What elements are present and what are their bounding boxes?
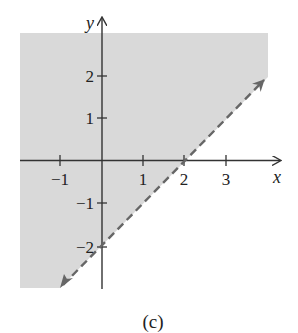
y-tick-label: −2 — [76, 238, 94, 257]
x-tick-label: 3 — [222, 170, 231, 189]
x-tick-label: 1 — [139, 170, 148, 189]
x-tick-label: 2 — [180, 170, 189, 189]
x-tick-label: −1 — [51, 170, 69, 189]
y-tick-label: −1 — [76, 194, 94, 213]
figure-caption: (c) — [142, 311, 163, 333]
y-tick-label: 1 — [86, 109, 95, 128]
y-axis-label: y — [84, 13, 94, 33]
y-tick-label: 2 — [86, 67, 95, 86]
x-axis-label: x — [272, 167, 281, 187]
graph: −1 1 2 3 2 1 −1 −2 x y (c) — [0, 0, 298, 333]
